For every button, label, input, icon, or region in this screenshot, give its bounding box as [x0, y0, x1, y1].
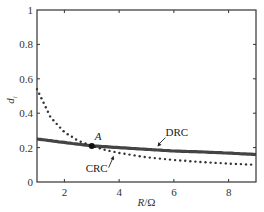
data-dot: [204, 161, 206, 163]
crc-arrow: [109, 159, 113, 168]
series-layer: [36, 88, 256, 166]
data-dot: [123, 153, 125, 155]
data-dot: [144, 156, 146, 158]
data-dot: [199, 161, 201, 163]
x-tick-label: 6: [171, 186, 177, 198]
x-tick-label: 4: [116, 186, 122, 198]
data-dot: [45, 106, 47, 108]
data-dot: [59, 126, 61, 128]
y-axis-label: di: [4, 96, 19, 104]
data-dot: [235, 163, 237, 165]
data-dot: [230, 163, 232, 165]
y-tick-label: 1: [28, 4, 34, 16]
data-dot: [139, 155, 141, 157]
x-tick-label: 8: [226, 186, 232, 198]
data-dot: [250, 163, 252, 165]
data-dot: [40, 97, 42, 99]
drc-label: DRC: [165, 126, 188, 138]
axes-frame: [37, 10, 256, 182]
data-dot: [62, 130, 64, 132]
data-dot: [149, 156, 151, 158]
chart: ADRCCRC 246800.20.40.60.81R/Ωdi: [0, 0, 264, 212]
crc-arrowhead: [111, 156, 115, 161]
data-dot: [75, 138, 77, 140]
data-dot: [113, 151, 115, 153]
data-dot: [220, 162, 222, 164]
data-dot: [108, 150, 110, 152]
data-dot: [214, 162, 216, 164]
point-a-marker: [89, 143, 95, 149]
data-dot: [47, 111, 49, 113]
data-dot: [184, 160, 186, 162]
data-dot: [71, 136, 73, 138]
data-dot: [49, 115, 51, 117]
y-tick-label: 0: [28, 176, 34, 188]
y-tick-label: 0.8: [19, 38, 33, 50]
data-dot: [99, 147, 101, 149]
data-dot: [174, 159, 176, 161]
data-dot: [42, 102, 44, 104]
data-dot: [240, 163, 242, 165]
data-dot: [133, 154, 135, 156]
data-dot: [118, 152, 120, 154]
data-dot: [56, 123, 58, 125]
data-dot: [179, 159, 181, 161]
x-tick-label: 2: [62, 186, 68, 198]
data-dot: [154, 157, 156, 159]
x-axis-label: R/Ω: [137, 196, 156, 208]
y-tick-label: 0.2: [19, 142, 33, 154]
data-dot: [164, 158, 166, 160]
point-a-label: A: [94, 130, 102, 142]
data-dot: [245, 163, 247, 165]
data-dot: [209, 161, 211, 163]
data-dot: [80, 141, 82, 143]
series-drc: [37, 139, 256, 155]
data-dot: [225, 162, 227, 164]
data-dot: [169, 158, 171, 160]
data-dot: [38, 93, 40, 95]
y-tick-label: 0.6: [19, 73, 33, 85]
data-dot: [194, 160, 196, 162]
data-dot: [159, 157, 161, 159]
data-dot: [103, 149, 105, 151]
data-dot: [128, 153, 130, 155]
data-dot: [189, 160, 191, 162]
data-dot: [84, 142, 86, 144]
axes-layer: 246800.20.40.60.81R/Ωdi: [4, 4, 256, 208]
data-dot: [67, 133, 69, 135]
data-dot: [52, 119, 54, 121]
crc-label: CRC: [86, 162, 108, 174]
y-tick-label: 0.4: [19, 107, 33, 119]
